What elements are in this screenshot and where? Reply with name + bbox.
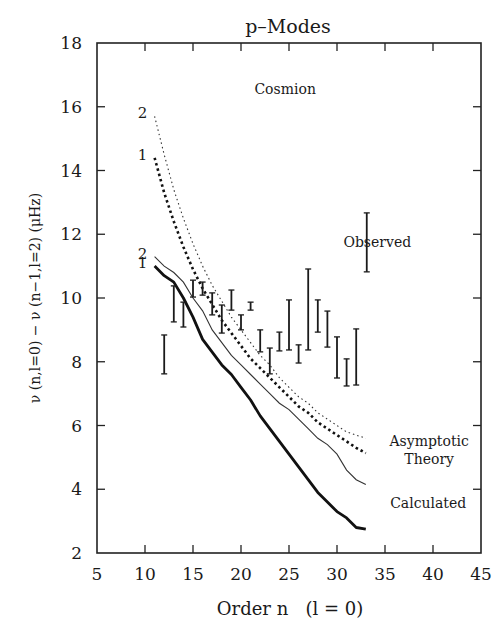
error-bar <box>315 300 321 332</box>
error-bar <box>180 302 186 327</box>
error-bar <box>334 337 340 378</box>
x-tick-label: 10 <box>134 564 156 584</box>
y-axis-label: ν (n,l=0) − ν (n−1,l=2) (μHz) <box>27 193 43 403</box>
y-tick-label: 8 <box>71 352 82 372</box>
y-tick-label: 6 <box>71 416 82 436</box>
p-modes-chart: p–Modes 51015202530354045 24681012141618… <box>0 0 503 630</box>
y-axis-ticks: 24681012141618 <box>60 33 481 563</box>
x-tick-label: 45 <box>470 564 492 584</box>
plot-frame <box>97 43 481 553</box>
series-lines: 2121 <box>138 104 366 529</box>
series-thin-solid <box>155 257 366 485</box>
error-bar <box>353 329 359 385</box>
error-bar <box>209 293 215 315</box>
annotations: CosmionObservedAsymptoticTheoryCalculate… <box>254 81 469 511</box>
y-tick-label: 2 <box>71 543 82 563</box>
x-tick-label: 15 <box>182 564 204 584</box>
annotation-theory: Theory <box>404 451 454 467</box>
curve-label: 2 <box>138 104 148 122</box>
annotation-calculated: Calculated <box>390 495 466 511</box>
error-bar <box>296 345 302 363</box>
x-tick-label: 35 <box>374 564 396 584</box>
error-bar <box>286 300 292 350</box>
error-bar <box>238 315 244 330</box>
x-tick-label: 5 <box>92 564 103 584</box>
curve-label: 1 <box>138 254 148 272</box>
error-bar <box>276 332 282 351</box>
y-tick-label: 12 <box>60 224 82 244</box>
y-tick-label: 18 <box>60 33 82 53</box>
annotation-observed: Observed <box>343 234 411 250</box>
y-tick-label: 16 <box>60 97 82 117</box>
error-bar <box>305 269 311 350</box>
error-bar <box>267 348 273 374</box>
y-tick-label: 10 <box>60 288 82 308</box>
x-tick-label: 40 <box>422 564 444 584</box>
plot-border <box>97 43 481 553</box>
series-thick-solid <box>155 266 366 529</box>
error-bar <box>248 302 254 310</box>
error-bar <box>257 330 263 352</box>
error-bar <box>161 335 167 374</box>
x-tick-label: 25 <box>278 564 300 584</box>
curve-label: 1 <box>138 146 148 164</box>
chart-title: p–Modes <box>245 15 331 37</box>
x-tick-label: 20 <box>230 564 252 584</box>
error-bar <box>171 286 177 322</box>
error-bar <box>228 290 234 310</box>
chart-container: p–Modes 51015202530354045 24681012141618… <box>0 0 503 630</box>
error-bar <box>219 305 225 333</box>
series-thin-dotted <box>155 116 366 438</box>
error-bar <box>344 359 350 386</box>
annotation-asymptotic: Asymptotic <box>388 433 469 449</box>
y-tick-label: 14 <box>60 161 82 181</box>
x-tick-label: 30 <box>326 564 348 584</box>
annotation-cosmion: Cosmion <box>254 81 316 97</box>
y-tick-label: 4 <box>71 479 82 499</box>
x-axis-label: Order n (l = 0) <box>217 598 363 619</box>
error-bar <box>324 311 330 347</box>
